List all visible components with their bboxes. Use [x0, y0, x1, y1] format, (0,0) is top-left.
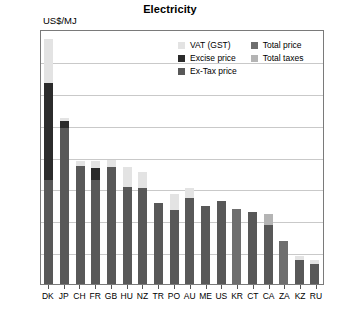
bar-segment-extax	[201, 206, 210, 284]
bar-segment-extax	[123, 187, 132, 284]
stacked-bar[interactable]	[138, 172, 147, 284]
bar-segment-extax	[154, 203, 163, 284]
legend-item-total[interactable]: Total price	[251, 40, 304, 50]
x-tick-mark	[269, 285, 270, 289]
bar-column[interactable]	[41, 31, 56, 284]
x-tick-ru: RU	[308, 285, 323, 311]
bar-segment-extax	[91, 180, 100, 284]
legend-swatch-taxes	[251, 55, 258, 62]
legend-swatch-vat	[178, 42, 185, 49]
stacked-bar[interactable]	[154, 203, 163, 284]
legend-swatch-total	[251, 42, 258, 49]
stacked-bar[interactable]	[295, 256, 304, 284]
x-tick-mark	[190, 285, 191, 289]
bar-segment-excise	[60, 121, 69, 128]
legend-swatch-excise	[178, 55, 185, 62]
stacked-bar[interactable]	[185, 188, 194, 284]
x-tick-mark	[111, 285, 112, 289]
electricity-price-chart: Electricity US$/MJ 0.080.070.060.050.040…	[0, 0, 340, 314]
legend-label: Total price	[263, 40, 302, 50]
bar-column[interactable]	[88, 31, 103, 284]
legend-item-extax[interactable]: Ex-Tax price	[178, 66, 237, 76]
x-tick-mark	[316, 285, 317, 289]
stacked-bar[interactable]	[76, 161, 85, 284]
stacked-bar[interactable]	[170, 194, 179, 284]
bar-segment-extax	[44, 180, 53, 284]
bar-segment-taxes	[264, 214, 273, 225]
stacked-bar[interactable]	[201, 206, 210, 284]
legend-item-taxes[interactable]: Total taxes	[251, 53, 304, 63]
legend-label: Excise price	[190, 53, 236, 63]
stacked-bar[interactable]	[107, 160, 116, 284]
legend-swatch-extax	[178, 68, 185, 75]
bar-segment-total	[232, 209, 241, 284]
bar-segment-vat	[123, 167, 132, 187]
x-tick-mark	[95, 285, 96, 289]
chart-legend: VAT (GST)Excise priceEx-Tax price Total …	[178, 40, 303, 76]
y-axis-unit-label: US$/MJ	[43, 15, 77, 26]
bar-segment-extax	[76, 166, 85, 284]
x-tick-mark	[206, 285, 207, 289]
stacked-bar[interactable]	[264, 214, 273, 284]
legend-column-right: Total priceTotal taxes	[251, 40, 304, 76]
stacked-bar[interactable]	[44, 39, 53, 284]
legend-label: Ex-Tax price	[190, 66, 237, 76]
x-tick-label: RU	[304, 291, 327, 301]
bar-segment-extax	[170, 210, 179, 284]
bar-segment-extax	[310, 264, 319, 284]
x-tick-mark	[253, 285, 254, 289]
x-tick-mark	[142, 285, 143, 289]
bar-segment-extax	[217, 201, 226, 285]
x-tick-mark	[237, 285, 238, 289]
x-tick-mark	[48, 285, 49, 289]
legend-item-excise[interactable]: Excise price	[178, 53, 237, 63]
x-tick-mark	[174, 285, 175, 289]
x-tick-mark	[284, 285, 285, 289]
x-tick-mark	[64, 285, 65, 289]
stacked-bar[interactable]	[60, 118, 69, 284]
bar-column[interactable]	[104, 31, 119, 284]
bar-segment-extax	[264, 225, 273, 284]
stacked-bar[interactable]	[232, 209, 241, 284]
bar-segment-vat	[44, 39, 53, 84]
stacked-bar[interactable]	[91, 161, 100, 284]
x-tick-mark	[221, 285, 222, 289]
x-axis-tick-labels: DKJPCHFRGBHUNZTRPOAUMEUSKRCTCAZAKZRU	[40, 285, 324, 311]
bar-segment-extax	[60, 128, 69, 284]
bar-column[interactable]	[307, 31, 322, 284]
stacked-bar[interactable]	[310, 260, 319, 284]
bar-column[interactable]	[73, 31, 88, 284]
stacked-bar[interactable]	[279, 241, 288, 284]
bar-column[interactable]	[120, 31, 135, 284]
legend-item-vat[interactable]: VAT (GST)	[178, 40, 237, 50]
legend-label: Total taxes	[263, 53, 304, 63]
bar-column[interactable]	[151, 31, 166, 284]
bar-segment-extax	[107, 167, 116, 284]
bar-segment-vat	[138, 172, 147, 188]
x-tick-mark	[79, 285, 80, 289]
bar-column[interactable]	[135, 31, 150, 284]
legend-label: VAT (GST)	[190, 40, 231, 50]
stacked-bar[interactable]	[123, 167, 132, 284]
bar-segment-vat	[170, 194, 179, 210]
bar-segment-total	[279, 241, 288, 284]
x-tick-mark	[158, 285, 159, 289]
x-tick-mark	[127, 285, 128, 289]
x-tick-mark	[300, 285, 301, 289]
bar-segment-extax	[185, 198, 194, 284]
bar-segment-vat	[185, 188, 194, 198]
stacked-bar[interactable]	[217, 201, 226, 285]
chart-title: Electricity	[0, 3, 340, 15]
bar-segment-extax	[295, 260, 304, 284]
legend-column-left: VAT (GST)Excise priceEx-Tax price	[178, 40, 237, 76]
bar-column[interactable]	[57, 31, 72, 284]
bar-segment-excise	[91, 168, 100, 181]
stacked-bar[interactable]	[248, 212, 257, 284]
bar-segment-extax	[138, 188, 147, 284]
bar-segment-excise	[44, 83, 53, 180]
bar-segment-extax	[248, 212, 257, 284]
